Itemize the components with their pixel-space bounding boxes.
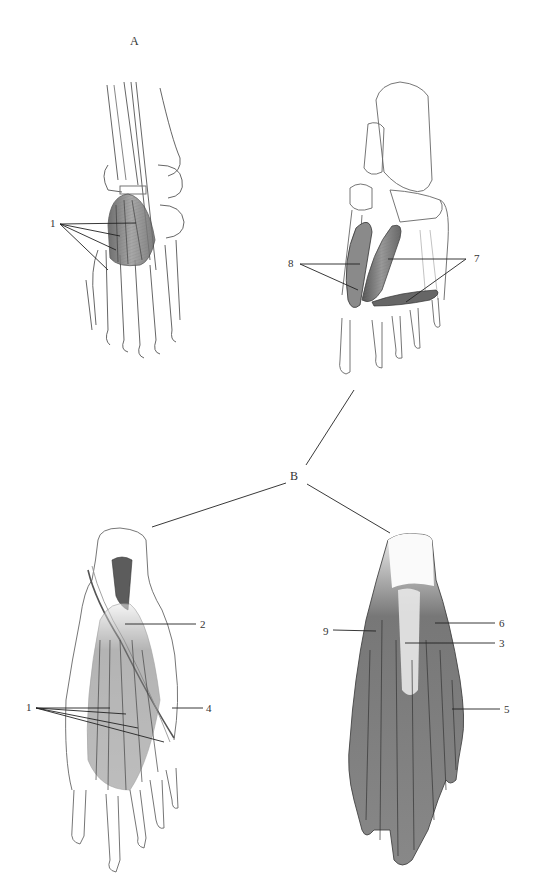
callout-7: 7 — [474, 253, 480, 264]
callout-9: 9 — [323, 626, 329, 637]
callout-8: 8 — [288, 258, 294, 269]
panel-b-label: B — [290, 471, 298, 482]
callout-3: 3 — [499, 638, 505, 649]
plantar-intermediate-muscles — [87, 557, 160, 790]
anatomy-illustration — [0, 0, 539, 895]
callout-1-plantar: 1 — [26, 702, 32, 713]
dorsal-muscle-belly — [108, 194, 155, 266]
callout-6: 6 — [499, 618, 505, 629]
panel-a-label: A — [130, 36, 139, 47]
callout-2: 2 — [200, 619, 206, 630]
plantar-superficial-foot-drawing — [349, 534, 464, 865]
callout-4: 4 — [206, 703, 212, 714]
callout-1-dorsal: 1 — [50, 218, 56, 229]
callout-5: 5 — [504, 704, 510, 715]
deep-plantar-muscles — [346, 222, 438, 307]
